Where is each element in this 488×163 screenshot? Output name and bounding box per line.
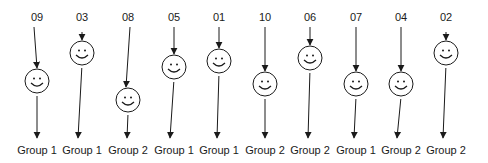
arrow-to-group: [217, 76, 219, 138]
participant-id-label: 01: [213, 11, 225, 23]
arrow-to-group: [354, 99, 356, 138]
group-label: Group 1: [154, 144, 194, 156]
group-label: Group 2: [290, 144, 330, 156]
arrow-to-group: [443, 68, 446, 138]
group-label: Group 1: [17, 144, 57, 156]
participant-id-label: 08: [122, 11, 134, 23]
participant-id-label: 07: [350, 11, 362, 23]
smiley-face-icon: [70, 41, 94, 65]
participant-id-label: 05: [168, 11, 180, 23]
arrow-to-group: [397, 99, 401, 138]
arrow-to-participant: [126, 27, 130, 87]
arrow-to-group: [308, 73, 310, 138]
smiley-face-icon: [298, 46, 322, 70]
participant-column: [162, 27, 186, 138]
arrow-to-group: [78, 68, 82, 138]
smiley-face-icon: [25, 69, 49, 93]
participant-column: [298, 27, 322, 138]
group-label: Group 2: [381, 144, 421, 156]
participant-column: [25, 27, 49, 138]
diagram-canvas: [0, 0, 488, 163]
assignment-diagram: 09Group 103Group 108Group 205Group 101Gr…: [0, 0, 488, 163]
participant-id-label: 02: [440, 11, 452, 23]
smiley-face-icon: [253, 72, 277, 96]
group-label: Group 1: [62, 144, 102, 156]
participant-column: [116, 27, 140, 138]
group-label: Group 1: [336, 144, 376, 156]
participant-column: [207, 27, 231, 138]
group-label: Group 2: [426, 144, 466, 156]
participant-column: [389, 27, 413, 138]
participant-id-label: 09: [31, 11, 43, 23]
arrow-to-participant: [34, 27, 37, 68]
participant-column: [344, 27, 368, 138]
participant-column: [434, 32, 458, 138]
participant-id-label: 06: [304, 11, 316, 23]
smiley-face-icon: [389, 72, 413, 96]
smiley-face-icon: [207, 49, 231, 73]
smiley-face-icon: [344, 72, 368, 96]
smiley-face-icon: [434, 41, 458, 65]
participant-id-label: 10: [259, 11, 271, 23]
group-label: Group 2: [108, 144, 148, 156]
participant-id-label: 04: [395, 11, 407, 23]
arrow-to-group: [127, 115, 128, 138]
participant-column: [253, 27, 277, 138]
group-label: Group 1: [199, 144, 239, 156]
arrow-to-group: [170, 82, 174, 138]
smiley-face-icon: [116, 88, 140, 112]
smiley-face-icon: [162, 55, 186, 79]
group-label: Group 2: [245, 144, 285, 156]
participant-column: [70, 32, 94, 138]
participant-id-label: 03: [76, 11, 88, 23]
